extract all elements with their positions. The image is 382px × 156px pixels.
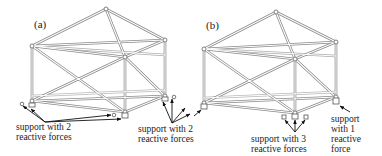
panel-b-label: (b) bbox=[206, 19, 219, 31]
annotation-a-support-right: support with 2 reactive forces bbox=[138, 124, 194, 144]
truss-a-members-inner bbox=[32, 9, 165, 112]
annotation-a-support-left: support with 2 reactive forces bbox=[16, 122, 72, 142]
annotation-b-support-middle: support with 3 reactive forces bbox=[251, 134, 307, 154]
panel-a-label: (a) bbox=[34, 18, 46, 30]
annotation-b-support-right: support with 1 reactive force bbox=[331, 114, 361, 154]
